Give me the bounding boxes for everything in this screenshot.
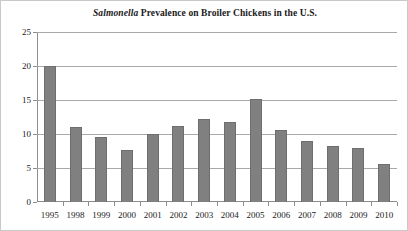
bar[interactable] (172, 126, 184, 202)
bar[interactable] (44, 66, 56, 202)
x-axis-tick-label: 1995 (37, 210, 63, 221)
y-axis-tick-label: 15 (22, 96, 31, 105)
bar-column[interactable] (198, 32, 210, 202)
x-axis-tick-label: 2004 (217, 210, 243, 221)
chart-title: Salmonella Prevalence on Broiler Chicken… (1, 7, 408, 19)
y-axis-tick-label: 25 (22, 28, 31, 37)
x-axis-tick-label: 2010 (371, 210, 397, 221)
chart-figure: Salmonella Prevalence on Broiler Chicken… (0, 0, 408, 231)
bar-column[interactable] (147, 32, 159, 202)
x-axis-tick (268, 202, 269, 206)
bar[interactable] (121, 150, 133, 202)
bar-column[interactable] (378, 32, 390, 202)
x-axis-tick (217, 202, 218, 206)
x-axis-tick (320, 202, 321, 206)
bar[interactable] (70, 127, 82, 202)
x-axis-tick-label: 2008 (320, 210, 346, 221)
bar-column[interactable] (70, 32, 82, 202)
y-axis-tick-label: 0 (27, 198, 32, 207)
bar[interactable] (250, 99, 262, 202)
bar[interactable] (147, 134, 159, 202)
bar[interactable] (327, 146, 339, 202)
bar-column[interactable] (352, 32, 364, 202)
x-axis-tick-label: 2006 (268, 210, 294, 221)
bar-series (37, 32, 397, 202)
x-axis-tick-label: 2002 (166, 210, 192, 221)
bar-column[interactable] (172, 32, 184, 202)
x-axis-tick (371, 202, 372, 206)
bar-column[interactable] (301, 32, 313, 202)
x-axis-tick (346, 202, 347, 206)
bar-column[interactable] (327, 32, 339, 202)
x-axis-tick (191, 202, 192, 206)
bar-column[interactable] (250, 32, 262, 202)
bar-column[interactable] (95, 32, 107, 202)
x-axis-tick (140, 202, 141, 206)
x-axis-tick (166, 202, 167, 206)
x-axis-tick-label: 2003 (191, 210, 217, 221)
chart-title-rest: Prevalence on Broiler Chickens in the U.… (138, 8, 317, 18)
x-axis-tick-label: 2000 (114, 210, 140, 221)
chart-title-italic-part: Salmonella (93, 8, 138, 18)
y-axis-tick-label: 20 (22, 62, 31, 71)
x-axis-tick (88, 202, 89, 206)
plot-area: 0510152025 19951998199920002001200220032… (37, 32, 397, 202)
x-axis-tick (114, 202, 115, 206)
bar[interactable] (275, 130, 287, 202)
x-axis-tick-label: 2009 (346, 210, 372, 221)
bar[interactable] (198, 119, 210, 202)
bar[interactable] (301, 141, 313, 202)
bar-column[interactable] (44, 32, 56, 202)
x-axis-tick-label: 1998 (63, 210, 89, 221)
x-axis-tick-label: 2001 (140, 210, 166, 221)
x-axis-tick (63, 202, 64, 206)
bar[interactable] (378, 164, 390, 202)
y-axis-tick-label: 5 (27, 164, 32, 173)
bar-column[interactable] (224, 32, 236, 202)
x-axis-tick (243, 202, 244, 206)
y-axis-tick-label: 10 (22, 130, 31, 139)
x-axis-tick-label: 1999 (88, 210, 114, 221)
bar[interactable] (95, 137, 107, 202)
bar-column[interactable] (121, 32, 133, 202)
x-axis-tick (397, 202, 398, 206)
bar[interactable] (224, 122, 236, 202)
x-axis-tick-label: 2005 (243, 210, 269, 221)
bar[interactable] (352, 148, 364, 202)
y-axis-tick (33, 202, 37, 203)
bar-column[interactable] (275, 32, 287, 202)
x-axis-tick-label: 2007 (294, 210, 320, 221)
x-axis-tick (294, 202, 295, 206)
